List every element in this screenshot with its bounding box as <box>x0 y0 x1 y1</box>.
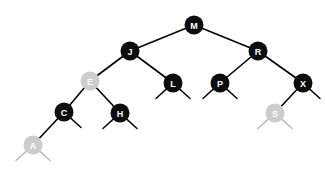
node-circle-a <box>24 136 43 155</box>
null-leaf-stub-c-right <box>70 117 81 127</box>
node-circle-j <box>121 42 140 61</box>
null-leaf-stub-l-left <box>156 88 167 98</box>
tree-canvas: MJRELPXCHSA <box>0 0 325 169</box>
tree-null-leaf-stubs-group <box>16 88 320 160</box>
node-circle-e <box>81 72 100 91</box>
null-leaf-stub-p-right <box>226 88 237 98</box>
null-leaf-stub-s-left <box>258 118 269 128</box>
tree-node-h[interactable]: H <box>111 104 130 123</box>
node-circle-p <box>211 74 230 93</box>
node-circle-r <box>249 42 268 61</box>
null-leaf-stub-l-right <box>179 88 190 98</box>
tree-edge-m-r <box>194 25 258 51</box>
null-leaf-stub-x-right <box>309 88 320 98</box>
node-circle-l <box>164 74 183 93</box>
tree-node-e[interactable]: E <box>81 72 100 91</box>
node-circle-m <box>185 16 204 35</box>
null-leaf-stub-h-right <box>126 118 137 128</box>
tree-node-m[interactable]: M <box>185 16 204 35</box>
null-leaf-stub-s-right <box>281 118 292 128</box>
node-circle-c <box>55 103 74 122</box>
node-circle-s <box>266 104 285 123</box>
null-leaf-stub-a-left <box>16 150 27 160</box>
tree-node-s[interactable]: S <box>266 104 285 123</box>
null-leaf-stub-a-right <box>39 150 50 160</box>
node-circle-h <box>111 104 130 123</box>
null-leaf-stub-h-left <box>103 118 114 128</box>
null-leaf-stub-p-left <box>203 88 214 98</box>
tree-edge-m-j <box>130 25 194 51</box>
tree-node-l[interactable]: L <box>164 74 183 93</box>
red-black-tree-figure: MJRELPXCHSA <box>0 0 325 169</box>
tree-node-r[interactable]: R <box>249 42 268 61</box>
tree-node-a[interactable]: A <box>24 136 43 155</box>
tree-node-c[interactable]: C <box>55 103 74 122</box>
tree-node-p[interactable]: P <box>211 74 230 93</box>
node-circle-x <box>294 74 313 93</box>
tree-node-j[interactable]: J <box>121 42 140 61</box>
tree-node-x[interactable]: X <box>294 74 313 93</box>
